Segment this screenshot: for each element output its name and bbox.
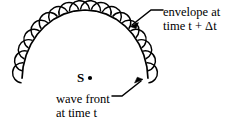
envelope-annotation: envelope at time t + Δt bbox=[163, 5, 220, 33]
wavelet bbox=[129, 69, 132, 80]
wavelet bbox=[99, 37, 109, 43]
source-point-dot bbox=[88, 76, 92, 80]
wave-front-annotation-line1: wave front bbox=[56, 92, 110, 106]
wavelet bbox=[54, 31, 65, 34]
wavelet-cap bbox=[78, 22, 99, 42]
wavelet-cap bbox=[10, 35, 31, 56]
envelope-leader bbox=[130, 10, 163, 29]
wave-front-annotation-line2: at time t bbox=[56, 106, 110, 120]
wavefront-leader bbox=[112, 77, 143, 96]
envelope-annotation-line1: envelope at bbox=[163, 5, 220, 19]
envelope-annotation-line2: time t + Δt bbox=[163, 19, 220, 33]
wavefront-leader-line bbox=[112, 81, 141, 96]
wavelet bbox=[118, 50, 125, 59]
source-label: S bbox=[77, 71, 84, 85]
wavelet bbox=[65, 30, 77, 32]
huygens-wavefront-figure: S envelope at time t + Δt wave front at … bbox=[0, 0, 237, 128]
wave-front-annotation: wave front at time t bbox=[56, 92, 110, 120]
